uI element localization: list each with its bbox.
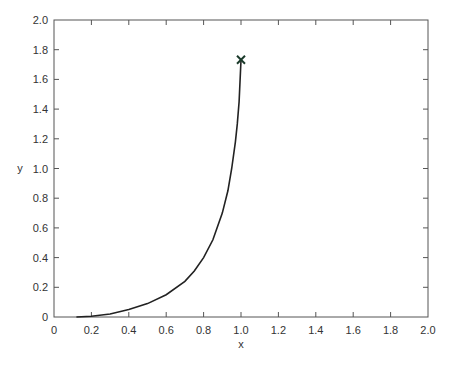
chart: 00.20.40.60.81.01.21.41.61.82.000.20.40.… (0, 0, 453, 366)
y-tick-label: 1.4 (33, 103, 48, 115)
x-tick-label: 0.2 (84, 324, 99, 336)
y-tick-label: 2.0 (33, 14, 48, 26)
y-tick-label: 0.8 (33, 192, 48, 204)
y-tick-label: 0 (42, 311, 48, 323)
y-tick-label: 1.8 (33, 44, 48, 56)
x-tick-label: 0.6 (159, 324, 174, 336)
x-tick-label: 0.8 (196, 324, 211, 336)
x-tick-label: 1.6 (346, 324, 361, 336)
y-tick-label: 1.2 (33, 133, 48, 145)
y-tick-label: 0.4 (33, 252, 48, 264)
axis-ticks: 00.20.40.60.81.01.21.41.61.82.000.20.40.… (33, 14, 436, 336)
data-curve (76, 60, 241, 317)
y-tick-label: 0.2 (33, 281, 48, 293)
y-tick-label: 1.6 (33, 73, 48, 85)
x-tick-label: 0 (51, 324, 57, 336)
x-axis-label: x (238, 338, 244, 350)
x-tick-label: 1.2 (271, 324, 286, 336)
x-tick-label: 1.8 (383, 324, 398, 336)
y-tick-label: 1.0 (33, 163, 48, 175)
x-tick-label: 2.0 (420, 324, 435, 336)
y-axis-label: y (17, 162, 23, 174)
x-tick-label: 1.4 (308, 324, 323, 336)
x-tick-label: 0.4 (121, 324, 136, 336)
y-tick-label: 0.6 (33, 222, 48, 234)
x-tick-label: 1.0 (233, 324, 248, 336)
